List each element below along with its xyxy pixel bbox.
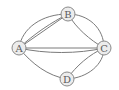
node-d: D [60,72,74,86]
node-b-label: B [64,9,71,20]
edge-a-c-curved [19,48,104,53]
node-c-label: C [100,43,108,54]
graph-diagram: A B C D [0,0,119,90]
graph-canvas: A B C D [0,0,119,90]
node-a-label: A [14,43,23,54]
node-c: C [97,41,111,55]
node-a: A [12,41,26,55]
node-d-label: D [63,74,71,85]
node-b: B [61,7,75,21]
